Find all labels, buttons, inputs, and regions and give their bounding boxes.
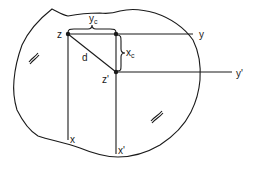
label-x: x — [70, 134, 75, 145]
point-z — [66, 32, 70, 36]
point-corner — [114, 32, 118, 36]
label-y-prime: y' — [236, 68, 243, 79]
label-z-prime: z' — [102, 74, 109, 85]
label-yc-sub: c — [94, 18, 98, 25]
label-xc-sub: c — [131, 52, 135, 59]
label-d: d — [82, 52, 88, 63]
label-yc: yc — [89, 13, 98, 25]
hatch-mark-left — [29, 53, 39, 64]
label-y: y — [199, 29, 204, 40]
label-z: z — [57, 29, 62, 40]
distance-d-line — [68, 34, 116, 72]
label-xc: xc — [126, 47, 135, 59]
yc-brace — [68, 25, 116, 33]
point-z-prime — [114, 70, 118, 74]
label-x-prime: x' — [118, 145, 125, 156]
xc-brace — [117, 35, 125, 71]
hatch-mark-right — [151, 111, 163, 123]
parallel-axis-diagram: z z' y y' x x' d yc xc — [0, 0, 255, 169]
